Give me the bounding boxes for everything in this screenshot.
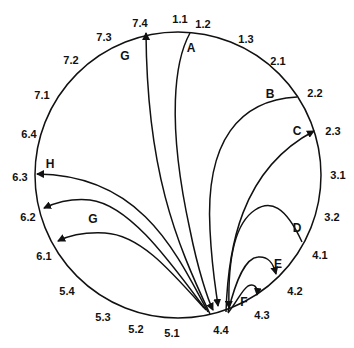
point-label-6-2: 6.2 xyxy=(20,211,35,223)
curve-label-g: G xyxy=(88,212,97,226)
curve-label-b: B xyxy=(266,87,275,101)
point-label-5-2: 5.2 xyxy=(128,323,143,335)
point-label-4-1: 4.1 xyxy=(312,249,327,261)
point-label-7-1: 7.1 xyxy=(34,89,49,101)
curve-label-f: F xyxy=(240,295,247,309)
curve-label-c: C xyxy=(293,124,302,138)
point-label-3-1: 3.1 xyxy=(330,169,345,181)
point-label-6-3: 6.3 xyxy=(12,171,27,183)
curves-group xyxy=(37,33,314,314)
curve-arrow-4-4-to-6-1 xyxy=(58,233,204,308)
point-label-2-1: 2.1 xyxy=(270,55,285,67)
point-label-3-2: 3.2 xyxy=(324,211,339,223)
point-label-7-3: 7.3 xyxy=(96,31,111,43)
circular-flow-diagram: 1.11.21.32.12.22.33.13.24.14.24.34.45.15… xyxy=(0,0,354,348)
point-label-2-3: 2.3 xyxy=(325,125,340,137)
point-label-4-3: 4.3 xyxy=(254,309,269,321)
curve-arrow-1-2-to-4-4 xyxy=(175,33,213,310)
curve-label-e: E xyxy=(274,257,282,271)
point-label-6-4: 6.4 xyxy=(21,128,37,140)
point-label-1-3: 1.3 xyxy=(238,33,253,45)
point-label-5-4: 5.4 xyxy=(59,285,75,297)
point-label-1-1: 1.1 xyxy=(172,13,187,25)
point-label-7-2: 7.2 xyxy=(63,54,78,66)
curve-label-g: G xyxy=(120,49,129,63)
point-label-5-3: 5.3 xyxy=(95,311,110,323)
point-label-4-2: 4.2 xyxy=(287,285,302,297)
point-label-2-2: 2.2 xyxy=(307,87,322,99)
point-label-6-1: 6.1 xyxy=(36,250,51,262)
point-label-1-2: 1.2 xyxy=(195,18,210,30)
point-label-7-4: 7.4 xyxy=(132,17,148,29)
curve-label-h: H xyxy=(46,157,55,171)
curve-label-a: A xyxy=(187,41,196,55)
point-label-5-1: 5.1 xyxy=(164,327,179,339)
point-label-4-4: 4.4 xyxy=(213,324,229,336)
curve-label-d: D xyxy=(293,221,302,235)
curve-arrow-2-2-to-4-4 xyxy=(210,97,297,306)
